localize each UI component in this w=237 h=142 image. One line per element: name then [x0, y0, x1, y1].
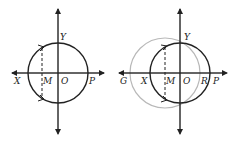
- right-label-m: M: [165, 76, 176, 86]
- right-label-p: P: [212, 76, 220, 86]
- right-label-g: G: [120, 76, 127, 86]
- left-label-p: P: [88, 76, 96, 86]
- left-label-y: Y: [60, 32, 67, 42]
- left-label-o: O: [61, 76, 69, 86]
- right-label-x: X: [140, 76, 148, 86]
- left-label-x: X: [13, 76, 21, 86]
- right-label-o: O: [183, 76, 191, 86]
- left-label-m: M: [42, 76, 53, 86]
- right-figure: G X M O R P Y: [119, 9, 227, 134]
- right-label-r: R: [200, 76, 208, 86]
- right-label-y: Y: [184, 32, 191, 42]
- diagram-canvas: X M O P Y G X M O R P Y: [0, 0, 237, 142]
- left-figure: X M O P Y: [12, 9, 104, 134]
